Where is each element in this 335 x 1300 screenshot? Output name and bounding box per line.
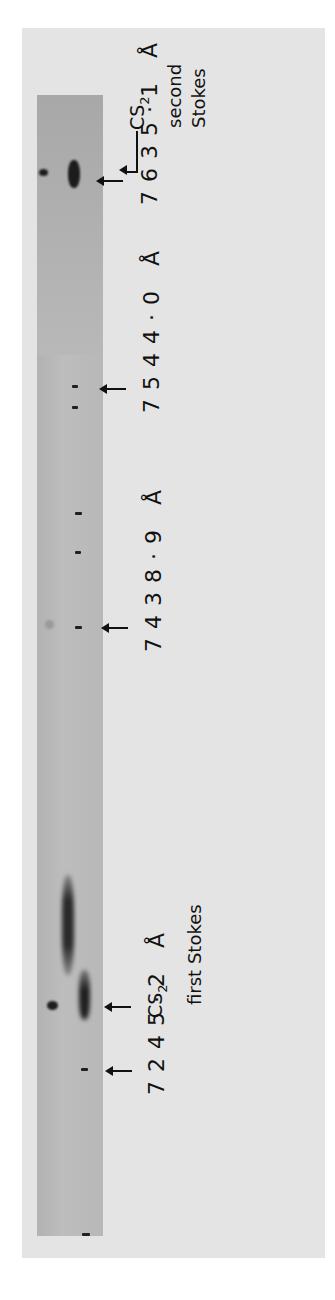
spectrum-strip bbox=[37, 95, 103, 1236]
broad-emission-smear bbox=[62, 875, 74, 975]
small-arrow-icon bbox=[119, 165, 127, 175]
second-label: second bbox=[164, 64, 185, 128]
reference-mark bbox=[81, 1068, 88, 1071]
wavelength-7635: 7635·1 Å bbox=[137, 34, 162, 205]
wavelength-7544: 7544·0 Å bbox=[139, 242, 164, 413]
arrow-icon bbox=[108, 627, 128, 629]
spectral-line-left bbox=[39, 169, 48, 176]
first-stokes-label: first Stokes bbox=[184, 904, 205, 1005]
cs2-second-stokes-line bbox=[68, 160, 80, 188]
strip-shading bbox=[37, 95, 103, 355]
arrow-icon bbox=[112, 1070, 132, 1072]
reference-mark bbox=[72, 406, 78, 409]
wavelength-7245: 7245·2 Å bbox=[144, 924, 169, 1095]
reference-mark bbox=[72, 385, 78, 388]
wavelength-7438: 7438·9 Å bbox=[141, 481, 166, 652]
arrow-icon bbox=[106, 388, 126, 390]
reference-mark bbox=[75, 512, 82, 515]
reference-mark bbox=[75, 626, 82, 629]
faint-spot bbox=[45, 620, 54, 629]
spectral-line-left bbox=[47, 1001, 58, 1010]
stokes-label: Stokes bbox=[188, 68, 209, 128]
reference-mark bbox=[75, 551, 81, 554]
reference-mark bbox=[82, 1233, 90, 1236]
arrow-icon bbox=[103, 180, 123, 182]
cs2-first-stokes-line bbox=[79, 970, 90, 1020]
arrow-icon bbox=[111, 1006, 131, 1008]
